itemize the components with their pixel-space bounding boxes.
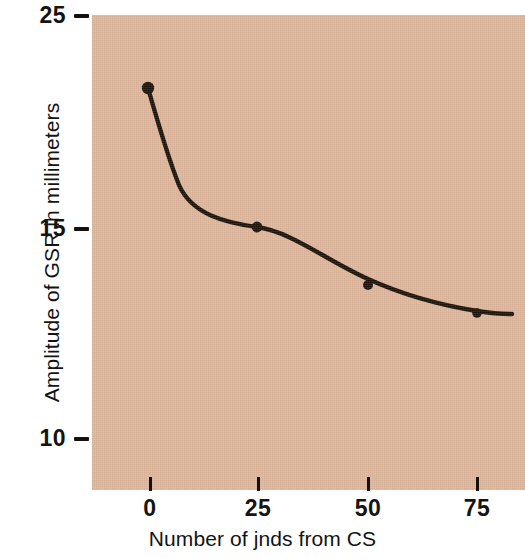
data-point-marker <box>142 82 154 94</box>
x-tick-mark-0 <box>149 477 152 491</box>
x-tick-label-50: 50 <box>355 497 382 520</box>
x-tick-mark-50 <box>367 477 370 491</box>
data-point-marker <box>252 222 263 233</box>
x-axis-title: Number of jnds from CS <box>0 527 525 551</box>
x-tick-mark-25 <box>257 477 260 491</box>
chart-figure: 25 15 10 0 25 50 75 Amplitude of GSR in … <box>0 0 525 559</box>
y-axis-title: Amplitude of GSR in millimeters <box>34 15 70 490</box>
x-tick-label-25: 25 <box>245 497 272 520</box>
plot-area <box>92 15 525 490</box>
curve-svg <box>92 15 525 490</box>
x-tick-mark-75 <box>476 477 479 491</box>
y-tick-mark-15 <box>74 227 89 231</box>
data-point-marker <box>472 308 482 318</box>
x-tick-label-0: 0 <box>143 497 156 520</box>
y-tick-mark-10 <box>74 437 89 441</box>
data-curve <box>148 88 512 314</box>
data-point-marker <box>363 280 373 290</box>
y-tick-mark-25 <box>74 14 89 18</box>
x-tick-label-75: 75 <box>464 497 491 520</box>
